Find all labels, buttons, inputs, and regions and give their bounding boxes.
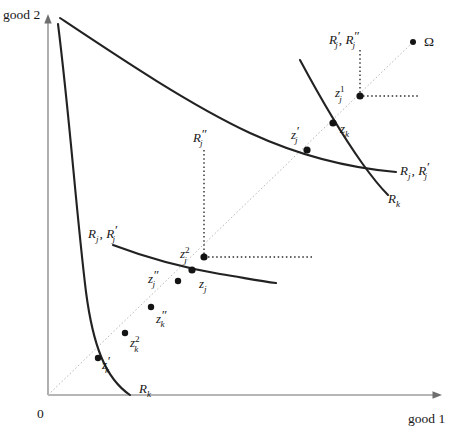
- svg-text:Rj, R′j: Rj, R′j: [87, 222, 117, 244]
- point-zj[interactable]: [188, 266, 195, 273]
- label-rj-rjprime-upper: Rj, R′j: [399, 159, 429, 181]
- y-axis-arrowhead: [44, 14, 51, 24]
- label-zj-sub: j: [203, 284, 207, 294]
- point-zj-dprime[interactable]: [175, 278, 181, 284]
- rju-sub: j: [407, 171, 411, 181]
- point-omega[interactable]: [410, 39, 416, 45]
- label-rj-rjprime-lower: Rj, R′j: [87, 222, 117, 244]
- svg-text:z′j: z′j: [290, 123, 299, 145]
- svg-text:Rk: Rk: [387, 191, 401, 209]
- svg-text:R′j, R″j: R′j, R″j: [328, 28, 360, 50]
- rjup-sub: j: [424, 171, 428, 181]
- svg-text:zj: zj: [198, 276, 207, 294]
- point-z2k[interactable]: [122, 330, 128, 336]
- point-z1j[interactable]: [356, 92, 363, 99]
- label-zjdpr-sub: j: [151, 279, 155, 289]
- point-zk-dprime[interactable]: [148, 304, 154, 310]
- label-zj-prime: z′j: [290, 123, 299, 145]
- rkl-sub: k: [147, 389, 152, 399]
- rku-sub: k: [396, 199, 401, 209]
- point-z2j[interactable]: [200, 253, 207, 260]
- label-zj-dprime: z″j: [147, 267, 159, 289]
- label-z2j-sup: 2: [185, 245, 190, 255]
- x-axis-label: good 1: [408, 411, 445, 426]
- svg-text:z2k: z2k: [129, 334, 140, 354]
- svg-text:z′k: z′k: [101, 353, 110, 375]
- label-zk: zk: [339, 121, 350, 139]
- label-zk-prime: z′k: [101, 353, 110, 375]
- svg-text:zk: zk: [339, 121, 350, 139]
- rjdm-sub: j: [199, 138, 203, 148]
- economics-indifference-diagram: good 2 good 1 0 Ω z1j zk z′j z2j: [0, 0, 457, 441]
- rku-base: R: [387, 191, 396, 206]
- label-omega: Ω: [424, 34, 434, 49]
- svg-text:z″k: z″k: [155, 307, 167, 329]
- svg-text:z2j: z2j: [179, 245, 190, 265]
- label-z2k: z2k: [129, 334, 140, 354]
- svg-text:Rj, R′j: Rj, R′j: [399, 159, 429, 181]
- rkl-base: R: [138, 381, 147, 396]
- figure-canvas: good 2 good 1 0 Ω z1j zk z′j z2j: [0, 0, 457, 441]
- rjl-sub: j: [95, 234, 99, 244]
- rjp-sub: j: [334, 40, 338, 50]
- lower-indifference-curve-rk: [58, 24, 130, 395]
- origin-label: 0: [37, 406, 44, 421]
- point-zk[interactable]: [329, 119, 336, 126]
- label-z1j: z1j: [334, 84, 345, 104]
- point-zk-prime[interactable]: [95, 355, 101, 361]
- label-z1j-sub: j: [338, 94, 342, 104]
- label-z2j: z2j: [179, 245, 190, 265]
- point-zj-prime[interactable]: [303, 146, 310, 153]
- label-rjdprime-middle: R″j: [192, 126, 207, 148]
- rjl-base: R: [87, 226, 96, 241]
- rjdp-sub: j: [351, 40, 355, 50]
- label-zk-sub: k: [345, 129, 350, 139]
- label-rk-upper: Rk: [387, 191, 401, 209]
- label-zjprime-sub: j: [294, 135, 298, 145]
- label-rk-lower: Rk: [138, 381, 152, 399]
- label-z1j-sup: 1: [340, 84, 345, 94]
- label-z2k-sub: k: [134, 344, 139, 354]
- svg-text:R″j: R″j: [192, 126, 207, 148]
- rju-base: R: [399, 163, 408, 178]
- label-zk-dprime: z″k: [155, 307, 167, 329]
- svg-text:Rk: Rk: [138, 381, 152, 399]
- label-z2j-sub: j: [183, 255, 187, 265]
- label-zj: zj: [198, 276, 207, 294]
- svg-text:z1j: z1j: [334, 84, 345, 104]
- label-rjprime-rjdprime: R′j, R″j: [328, 28, 360, 50]
- x-axis-arrowhead: [433, 391, 443, 398]
- data-points-group: [95, 39, 416, 361]
- label-z2k-sup: 2: [135, 334, 140, 344]
- rjlp-sub: j: [112, 234, 116, 244]
- y-axis-label: good 2: [3, 7, 40, 22]
- svg-text:z″j: z″j: [147, 267, 159, 289]
- middle-indifference-curve-rj: [113, 245, 276, 283]
